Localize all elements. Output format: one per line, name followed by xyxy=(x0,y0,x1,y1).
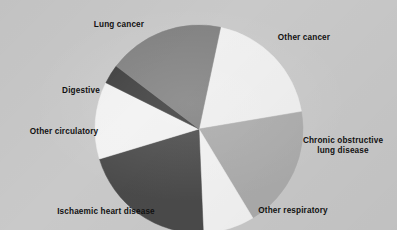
pie-chart-figure: Lung cancer Other cancer Chronic obstruc… xyxy=(0,0,397,230)
pie-label-other-cancer: Other cancer xyxy=(262,33,346,43)
pie-label-other-respiratory: Other respiratory xyxy=(245,206,341,216)
pie-label-digestive: Digestive xyxy=(46,86,116,96)
pie-label-other-circulatory: Other circulatory xyxy=(14,127,114,137)
pie-label-chronic-obstructive-lung-disease: Chronic obstructive lung disease xyxy=(293,136,393,156)
pie-label-lung-cancer: Lung cancer xyxy=(77,20,161,30)
pie-slice-group xyxy=(95,25,303,230)
pie-label-ischaemic-heart-disease: Ischaemic heart disease xyxy=(42,207,170,217)
